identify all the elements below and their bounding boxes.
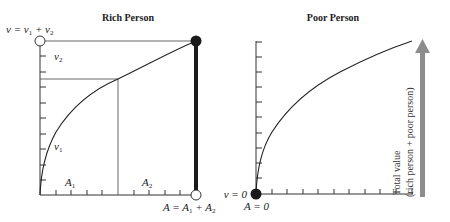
poor-origin-filled-circle	[251, 189, 262, 200]
a1-label: A1	[64, 176, 76, 190]
arrow-shaft	[420, 52, 425, 197]
v1-label: v1	[54, 140, 63, 154]
poor-person-chart: Poor Person	[224, 12, 413, 212]
rich-endpoint-filled-circle	[191, 36, 202, 47]
v-zero-label: v = 0	[224, 188, 248, 200]
total-value-arrow: Total value (rich person + poor person)	[391, 39, 430, 197]
rich-person-chart: Rich Person v = v1 + v2	[6, 12, 216, 215]
rich-chart-title: Rich Person	[102, 12, 154, 23]
total-value-label: Total value	[391, 150, 402, 195]
poor-value-curve	[256, 41, 412, 194]
v-total-open-circle	[35, 36, 45, 46]
poor-chart-title: Poor Person	[307, 12, 360, 23]
a-total-open-circle	[191, 190, 201, 200]
value-function-diagram: Rich Person v = v1 + v2	[0, 0, 450, 222]
v-total-label: v = v1 + v2	[6, 23, 54, 37]
a2-label: A2	[141, 176, 153, 190]
arrow-up-icon	[415, 39, 430, 53]
v2-label: v2	[54, 50, 63, 64]
a-total-label: A = A1 + A2	[162, 201, 216, 215]
total-value-sublabel: (rich person + poor person)	[404, 88, 416, 198]
a-zero-label: A = 0	[243, 200, 269, 212]
